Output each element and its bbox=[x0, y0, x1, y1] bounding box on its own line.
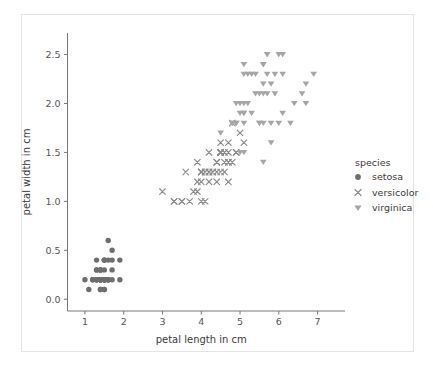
data-point-triangle bbox=[241, 62, 248, 67]
series-versicolor bbox=[160, 120, 247, 204]
data-point-x bbox=[202, 199, 208, 205]
y-tick-label: 1.0 bbox=[45, 196, 60, 207]
data-point-triangle bbox=[264, 52, 271, 57]
data-point-x bbox=[183, 169, 189, 175]
legend-item-label: setosa bbox=[372, 171, 403, 182]
data-point-x bbox=[214, 179, 220, 185]
x-tick-label: 2 bbox=[121, 316, 127, 327]
data-point-circle bbox=[117, 257, 122, 262]
x-tick-label: 1 bbox=[82, 316, 88, 327]
series-setosa bbox=[82, 238, 122, 292]
data-point-triangle bbox=[287, 121, 294, 126]
x-axis: 1234567 bbox=[82, 311, 321, 327]
data-point-triangle bbox=[268, 81, 275, 86]
data-point-triangle bbox=[264, 72, 271, 77]
data-point-x bbox=[226, 179, 232, 185]
data-point-x bbox=[206, 150, 212, 156]
y-axis: 0.00.51.01.52.02.5 bbox=[45, 49, 67, 305]
axes-spines bbox=[68, 33, 346, 311]
scatter-plot: 12345670.00.51.01.52.02.5petal length in… bbox=[0, 0, 433, 369]
data-point-x bbox=[160, 189, 166, 195]
series-virginica bbox=[217, 52, 317, 165]
data-point-x bbox=[179, 199, 185, 205]
data-point-x bbox=[222, 169, 228, 175]
x-tick-label: 6 bbox=[276, 316, 282, 327]
data-point-x bbox=[241, 140, 247, 146]
x-axis-title: petal length in cm bbox=[156, 334, 247, 345]
legend-item-setosa[interactable]: setosa bbox=[355, 171, 403, 182]
data-point-circle bbox=[86, 287, 91, 292]
data-point-x bbox=[226, 150, 232, 156]
data-point-triangle bbox=[310, 72, 317, 77]
x-tick-label: 3 bbox=[159, 316, 165, 327]
data-point-x bbox=[214, 159, 220, 165]
x-tick-label: 4 bbox=[198, 316, 204, 327]
legend-title: species bbox=[355, 157, 391, 168]
data-point-triangle bbox=[268, 121, 275, 126]
data-point-x bbox=[218, 150, 224, 156]
legend-item-versicolor[interactable]: versicolor bbox=[355, 187, 418, 198]
y-tick-label: 0.5 bbox=[45, 245, 60, 256]
data-point-triangle bbox=[272, 72, 279, 77]
y-tick-label: 2.0 bbox=[45, 98, 60, 109]
data-point-x bbox=[237, 130, 243, 136]
data-point-triangle bbox=[272, 91, 279, 96]
data-point-x bbox=[218, 140, 224, 146]
data-point-circle bbox=[98, 277, 103, 282]
data-point-x bbox=[171, 199, 177, 205]
data-point-circle bbox=[102, 257, 107, 262]
y-tick-label: 1.5 bbox=[45, 147, 60, 158]
data-point-triangle bbox=[303, 81, 310, 86]
legend-item-label: versicolor bbox=[372, 187, 418, 198]
data-point-triangle bbox=[275, 121, 282, 126]
data-point-triangle bbox=[260, 62, 267, 67]
x-tick-label: 7 bbox=[315, 316, 321, 327]
data-point-x bbox=[226, 140, 232, 146]
data-point-x bbox=[206, 179, 212, 185]
data-point-triangle bbox=[260, 81, 267, 86]
data-point-triangle bbox=[279, 72, 286, 77]
data-point-triangle bbox=[279, 111, 286, 116]
data-point-circle bbox=[98, 267, 103, 272]
data-point-circle bbox=[109, 267, 114, 272]
data-point-x bbox=[202, 169, 208, 175]
y-axis-title: petal width in cm bbox=[21, 129, 32, 216]
data-point-x bbox=[229, 159, 235, 165]
data-point-x bbox=[210, 169, 216, 175]
data-point-x bbox=[198, 179, 204, 185]
data-point-circle bbox=[98, 287, 103, 292]
data-point-triangle bbox=[354, 205, 361, 211]
data-point-triangle bbox=[241, 121, 248, 126]
data-point-circle bbox=[82, 277, 87, 282]
data-point-x bbox=[191, 189, 197, 195]
data-point-circle bbox=[355, 174, 361, 180]
data-point-triangle bbox=[268, 140, 275, 145]
data-point-circle bbox=[106, 238, 111, 243]
data-point-x bbox=[222, 159, 228, 165]
data-point-circle bbox=[94, 257, 99, 262]
data-point-x bbox=[355, 189, 361, 195]
legend: speciessetosaversicolorvirginica bbox=[354, 157, 418, 213]
x-tick-label: 5 bbox=[237, 316, 243, 327]
figure-canvas: 12345670.00.51.01.52.02.5petal length in… bbox=[0, 0, 433, 369]
y-tick-label: 0.0 bbox=[45, 294, 60, 305]
data-point-triangle bbox=[303, 101, 310, 106]
data-point-triangle bbox=[260, 160, 267, 165]
legend-item-virginica[interactable]: virginica bbox=[354, 202, 412, 213]
data-point-circle bbox=[117, 277, 122, 282]
y-tick-label: 2.5 bbox=[45, 49, 60, 60]
data-point-triangle bbox=[217, 130, 224, 135]
data-point-x bbox=[195, 159, 201, 165]
data-point-x bbox=[187, 199, 193, 205]
data-point-triangle bbox=[248, 111, 255, 116]
data-point-circle bbox=[109, 248, 114, 253]
data-point-triangle bbox=[299, 91, 306, 96]
legend-item-label: virginica bbox=[372, 202, 412, 213]
data-point-triangle bbox=[291, 101, 298, 106]
